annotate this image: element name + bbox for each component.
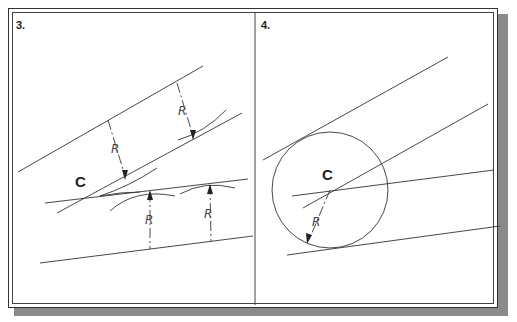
center-label: C — [322, 166, 333, 183]
panel-4-label: 4. — [261, 19, 270, 31]
given-line-upper — [18, 66, 203, 172]
arrow-head — [147, 190, 153, 200]
construction-drawing: R R R R R C C — [0, 0, 517, 322]
panel-3-label: 3. — [16, 19, 25, 31]
given-line-lower — [287, 226, 500, 255]
radius-label: R — [312, 215, 320, 229]
offset-line-upper — [303, 104, 488, 208]
radius-label: R — [111, 142, 119, 156]
radius-label: R — [178, 104, 186, 118]
given-line-lower — [40, 236, 253, 263]
center-label: C — [75, 173, 86, 190]
construction-arc — [110, 194, 175, 211]
arrow-head — [306, 233, 312, 244]
construction-arc — [100, 168, 157, 196]
panel-3-geometry — [18, 66, 253, 263]
radius-label: R — [145, 213, 153, 227]
radius-label: R — [204, 207, 212, 221]
given-line-upper — [263, 57, 448, 160]
panel-4-geometry — [263, 57, 500, 255]
